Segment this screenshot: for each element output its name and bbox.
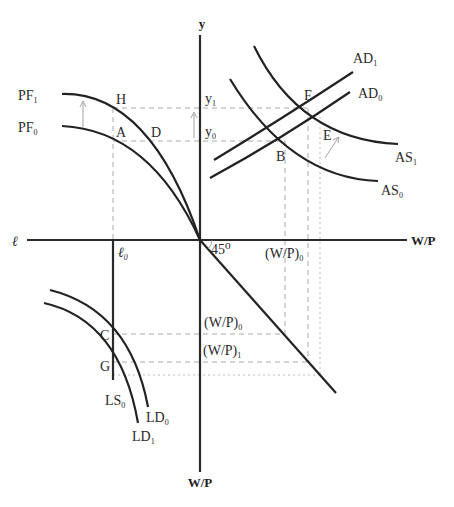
l0-label: ℓ0 [118,245,128,262]
ld1-label: LD1 [132,429,155,446]
point-f-label: F [304,88,312,103]
as0-label: AS0 [381,183,403,200]
point-b-label: B [276,149,285,164]
ad1-label: AD1 [353,51,377,68]
point-g-label: G [100,359,110,374]
as-shift-arrowhead [333,137,339,143]
pf0-label: PF0 [18,120,38,137]
ad-as-curves [210,46,398,181]
wp0-axis-label: (W/P)0 [265,246,303,263]
ld0-label: LD0 [146,410,169,427]
ld0-curve [50,290,148,407]
labor-demand-curves [44,290,148,423]
four-quadrant-labor-market-diagram: y W/P ℓ W/P 45⁰ y1 y0 ℓ0 (W/P)0 (W/P)0 (… [0,0,454,507]
as1-label: AS1 [395,150,417,167]
wp-axis-label-right: W/P [411,233,436,248]
point-a-label: A [116,125,127,140]
pf0-curve [62,126,200,240]
ad0-label: AD0 [358,86,382,103]
y-axis-label: y [199,16,206,31]
pf1-label: PF1 [18,88,38,105]
labor-axis-label: ℓ [12,234,18,249]
point-e-label: E [323,128,332,143]
wp-axis-label-bottom: W/P [188,475,213,490]
wp1-level-label: (W/P)1 [203,343,241,360]
y1-label: y1 [205,91,216,108]
ls0-label: LS0 [105,393,125,410]
point-h-label: H [116,92,126,107]
wp0-level-label: (W/P)0 [204,315,242,332]
y0-label: y0 [205,124,216,141]
point-d-label: D [151,125,161,140]
point-c-label: C [100,328,109,343]
angle-label: 45⁰ [211,242,231,257]
